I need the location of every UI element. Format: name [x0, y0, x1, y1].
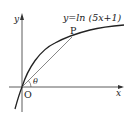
curve-label: y=ln (5x+1): [62, 12, 122, 23]
y-axis-arrow-icon: [20, 13, 24, 20]
origin-label: O: [24, 89, 32, 100]
chord-op: [22, 37, 72, 87]
y-axis-label: y: [13, 14, 20, 24]
point-p-label: P: [70, 25, 77, 36]
angle-theta-label: θ: [33, 77, 38, 86]
graph-figure: y=ln (5x+1) P O θ x y: [0, 0, 132, 126]
x-axis-label: x: [116, 88, 121, 98]
graph-svg: y=ln (5x+1) P O θ x y: [0, 0, 132, 126]
angle-arc: [28, 81, 31, 87]
